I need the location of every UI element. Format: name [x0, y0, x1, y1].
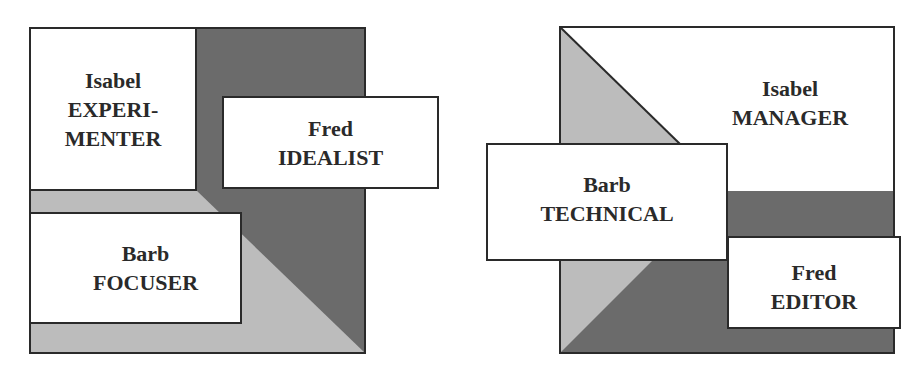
- barb-technical-box: Barb TECHNICAL: [486, 143, 728, 261]
- fred-role: EDITOR: [771, 287, 857, 316]
- right-diagram: Isabel MANAGER Barb TECHNICAL Fred EDITO…: [0, 0, 923, 378]
- fred-name: Fred: [792, 258, 837, 287]
- isabel-role: MANAGER: [700, 103, 880, 132]
- barb-name: Barb: [583, 170, 631, 199]
- isabel-manager-label: Isabel MANAGER: [700, 74, 880, 132]
- fred-editor-box: Fred EDITOR: [727, 236, 901, 329]
- barb-role: TECHNICAL: [540, 199, 673, 228]
- isabel-name: Isabel: [700, 74, 880, 103]
